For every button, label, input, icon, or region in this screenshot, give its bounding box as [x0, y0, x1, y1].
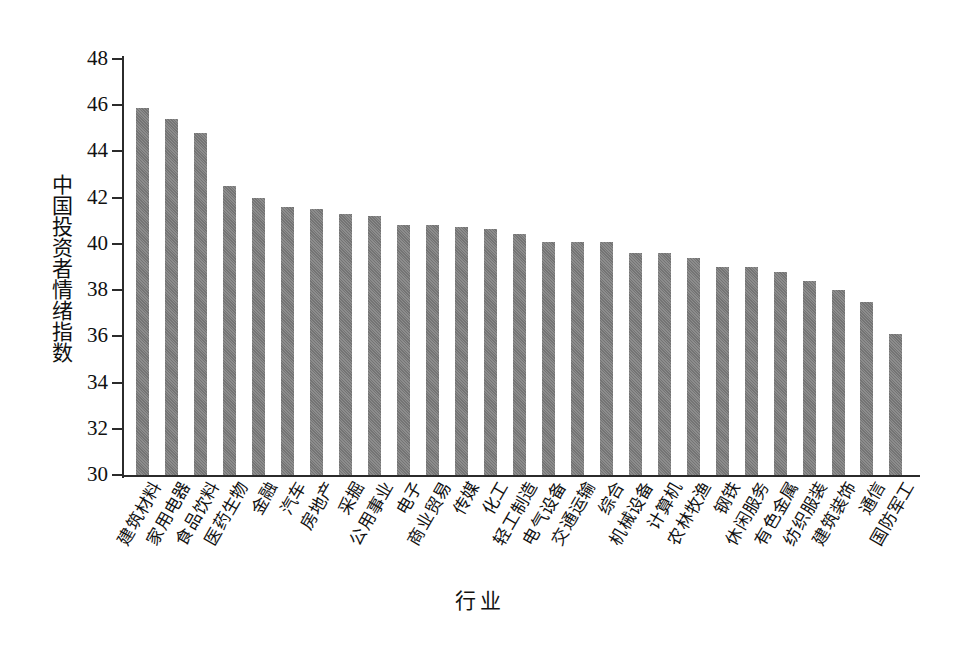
bar: [136, 108, 149, 475]
y-tick-label: 32: [66, 418, 108, 439]
bar: [571, 242, 584, 475]
bar: [716, 267, 729, 475]
bar: [803, 281, 816, 475]
bar: [600, 242, 613, 475]
bar: [223, 186, 236, 475]
y-tick-mark: [112, 428, 123, 430]
bar: [484, 229, 497, 475]
y-tick-mark: [112, 243, 123, 245]
y-tick-mark: [112, 335, 123, 337]
bar: [368, 216, 381, 475]
bar: [194, 133, 207, 475]
y-tick-mark: [112, 289, 123, 291]
y-tick-label: 36: [66, 325, 108, 346]
bar-chart-figure: 中国投资者情绪指数 30323436384042444648 建筑材料家用电器食…: [0, 0, 959, 661]
y-axis-tick-labels: 30323436384042444648: [58, 0, 108, 661]
bar: [774, 272, 787, 475]
bars-layer: [122, 58, 920, 475]
x-axis-tick-labels: 建筑材料家用电器食品饮料医药生物金融汽车房地产采掘公用事业电子商业贸易传媒化工轻…: [122, 479, 952, 594]
bar: [310, 209, 323, 475]
y-tick-label: 30: [66, 464, 108, 485]
bar: [629, 253, 642, 475]
bar: [860, 302, 873, 475]
y-tick-label: 44: [66, 140, 108, 161]
bar: [687, 258, 700, 475]
y-tick-label: 34: [66, 372, 108, 393]
bar: [658, 253, 671, 475]
bar: [745, 267, 758, 475]
bar: [832, 290, 845, 475]
bar: [165, 119, 178, 475]
x-tick-label: 传媒: [451, 479, 483, 518]
y-tick-label: 42: [66, 187, 108, 208]
bar: [542, 242, 555, 475]
bar: [455, 227, 468, 475]
y-tick-label: 40: [66, 233, 108, 254]
x-axis-title: 行业: [0, 588, 959, 614]
x-axis-line: [122, 475, 920, 477]
bar: [426, 225, 439, 475]
x-tick-label: 金融: [248, 479, 280, 518]
y-tick-label: 38: [66, 279, 108, 300]
y-tick-mark: [112, 150, 123, 152]
bar: [252, 198, 265, 475]
bar: [281, 207, 294, 475]
bar: [397, 225, 410, 475]
y-tick-mark: [112, 474, 123, 476]
y-tick-mark: [112, 197, 123, 199]
bar: [889, 334, 902, 475]
bar: [513, 234, 526, 476]
y-tick-label: 46: [66, 94, 108, 115]
y-tick-mark: [112, 58, 123, 60]
y-tick-mark: [112, 382, 123, 384]
bar: [339, 214, 352, 475]
y-tick-label: 48: [66, 48, 108, 69]
y-tick-mark: [112, 104, 123, 106]
